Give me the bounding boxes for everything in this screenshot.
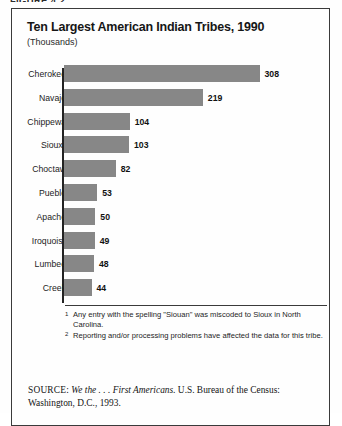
footnote-list: 1Any entry with the spelling "Siouan" wa… [65,310,327,342]
bar-value-label: 50 [100,212,110,222]
bar-category-label: Lumbee [11,259,66,269]
bar-chart-plot: Cherokee308Navajo219Chippewa104Sioux1103… [12,64,330,304]
bar-value-label: 82 [121,164,131,174]
bar [64,136,130,153]
bar-category-label: Cherokee [11,69,66,79]
bar [64,232,95,249]
source-title: We the . . . First Americans. [71,385,175,395]
bar-value-label: 48 [99,259,109,269]
bar [64,184,98,201]
bar-category-label: Navajo [11,93,66,103]
bar-category-label: Apache [11,212,66,222]
bar-category-label: Choctaw [11,164,66,174]
bar [64,279,92,296]
bar [64,160,116,177]
footnote-item: 1Any entry with the spelling "Siouan" wa… [65,310,327,330]
bar-category-label: Iroquois2 [11,236,66,246]
bar-value-label: 104 [135,117,150,127]
bar [64,113,130,130]
bar-category-label: Pueblo [11,188,66,198]
bar-category-label: Sioux1 [11,140,66,150]
footnote-text: Any entry with the spelling "Siouan" was… [73,310,301,329]
footnote-text: Reporting and/or processing problems hav… [73,331,323,340]
bar [64,89,203,106]
chart-title: Ten Largest American Indian Tribes, 1990 [27,20,264,34]
footnote-item: 2Reporting and/or processing problems ha… [65,331,327,341]
bar-category-label: Creek [11,283,66,293]
bar-row: Apache50 [12,207,330,231]
bar-category-label: Chippewa [11,117,66,127]
footnote-marker: 1 [65,309,68,319]
source-label: SOURCE: [28,385,69,395]
bar-value-label: 219 [208,93,223,103]
bar-row: Pueblo53 [12,183,330,207]
bar-row: Iroquois249 [12,231,330,255]
bar-row: Chippewa104 [12,112,330,136]
bar-value-label: 49 [100,236,110,246]
bar-row: Navajo219 [12,88,330,112]
bar-row: Cherokee308 [12,64,330,88]
bar [64,208,96,225]
footnote-marker: 2 [65,329,68,339]
bar-row: Sioux1103 [12,135,330,159]
bar-row: Lumbee48 [12,254,330,278]
bar [64,255,95,272]
bar [64,65,260,82]
bar-row: Choctaw82 [12,159,330,183]
source-note: SOURCE: We the . . . First Americans. U.… [28,384,320,409]
chart-subtitle: (Thousands) [27,37,78,47]
bar-value-label: 308 [265,69,280,79]
figure-box: Ten Largest American Indian Tribes, 1990… [11,8,330,426]
bar-value-label: 44 [97,283,107,293]
figure-caption: FIGURE 4.2 [10,0,65,2]
bar-value-label: 103 [134,140,149,150]
footnote-separator [65,305,327,306]
bar-value-label: 53 [102,188,112,198]
bar-row: Creek44 [12,278,330,302]
